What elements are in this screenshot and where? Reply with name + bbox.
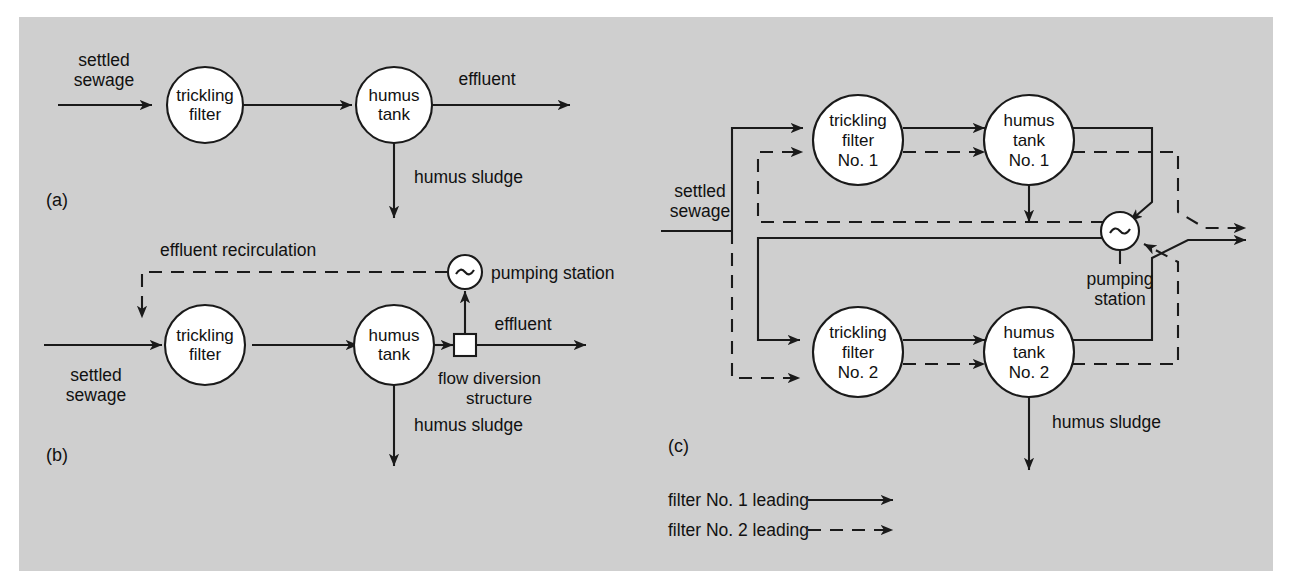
panel-b-tank-label-line1: humus bbox=[368, 326, 419, 345]
legend-item-2-label: filter No. 2 leading bbox=[668, 520, 809, 540]
panel-b-inlet-label-line2: sewage bbox=[66, 385, 126, 405]
panel-c-tank1-label-line2: tank bbox=[1013, 131, 1046, 150]
panel-c-filter1-label-line1: trickling bbox=[829, 111, 887, 130]
panel-c-tank1-to-pump-solid bbox=[1072, 128, 1152, 221]
panel-c-pumping-station-label-line2: station bbox=[1094, 289, 1146, 309]
panel-b-diversion-label-line2: structure bbox=[466, 389, 532, 408]
panel-c-filter2-label-line2: filter bbox=[842, 343, 874, 362]
panel-c: trickling filter No. 1 humus tank No. 1 … bbox=[661, 95, 1246, 470]
panel-c-tank1-to-effluent-dashed bbox=[1072, 152, 1246, 228]
panel-c-inlet-label-line1: settled bbox=[674, 181, 726, 201]
panel-b-filter-label-line1: trickling bbox=[176, 326, 234, 345]
panel-c-tank1-label-line1: humus bbox=[1003, 111, 1054, 130]
panel-c-tank1-label-line3: No. 1 bbox=[1009, 151, 1050, 170]
panel-b-tank-label-line2: tank bbox=[378, 345, 411, 364]
panel-b-sludge-label: humus sludge bbox=[414, 415, 523, 435]
panel-c-filter2-label-line1: trickling bbox=[829, 323, 887, 342]
panel-a-inlet-label-line2: sewage bbox=[74, 70, 134, 90]
panel-b: effluent recirculation pumping station s… bbox=[44, 240, 615, 466]
panel-a-tank-label-line2: tank bbox=[378, 105, 411, 124]
panel-b-diversion-label-line1: flow diversion bbox=[438, 369, 541, 388]
panel-a-effluent-label: effluent bbox=[458, 69, 515, 89]
panel-b-filter-label-line2: filter bbox=[189, 345, 221, 364]
panel-c-tank2-label-line2: tank bbox=[1013, 343, 1046, 362]
panel-a-filter-label-line1: trickling bbox=[176, 86, 234, 105]
panel-b-pumping-station-label: pumping station bbox=[491, 263, 615, 283]
panel-a-inlet-label-line1: settled bbox=[78, 50, 130, 70]
legend: filter No. 1 leading filter No. 2 leadin… bbox=[668, 490, 893, 540]
panel-c-influent-to-filter1-solid bbox=[732, 128, 803, 231]
panel-a-caption: (a) bbox=[46, 190, 68, 210]
panel-c-caption: (c) bbox=[668, 436, 689, 456]
figure-root: settled sewage trickling filter humus ta… bbox=[0, 0, 1294, 588]
panel-a-tank-label-line1: humus bbox=[368, 86, 419, 105]
panel-b-caption: (b) bbox=[46, 445, 68, 465]
panel-b-inlet-label-line1: settled bbox=[70, 365, 122, 385]
process-flow-diagram: settled sewage trickling filter humus ta… bbox=[0, 0, 1294, 588]
panel-c-sludge-label: humus sludge bbox=[1052, 412, 1161, 432]
panel-a: settled sewage trickling filter humus ta… bbox=[46, 50, 570, 218]
panel-b-recirculation-label: effluent recirculation bbox=[160, 240, 316, 260]
panel-b-effluent-label: effluent bbox=[494, 314, 551, 334]
panel-a-filter-label-line2: filter bbox=[189, 105, 221, 124]
panel-c-tank2-label-line1: humus bbox=[1003, 323, 1054, 342]
panel-c-influent-to-filter2-dashed bbox=[732, 231, 800, 378]
panel-c-pumping-station-label-line1: pumping bbox=[1086, 269, 1153, 289]
panel-c-filter1-label-line3: No. 1 bbox=[838, 151, 879, 170]
panel-c-inlet-label-line2: sewage bbox=[670, 201, 730, 221]
panel-a-sludge-label: humus sludge bbox=[414, 167, 523, 187]
panel-c-filter2-label-line3: No. 2 bbox=[838, 363, 879, 382]
panel-c-filter1-label-line2: filter bbox=[842, 131, 874, 150]
panel-b-flow-diversion-structure-node bbox=[454, 334, 476, 356]
legend-item-1-label: filter No. 1 leading bbox=[668, 490, 809, 510]
panel-c-tank2-label-line3: No. 2 bbox=[1009, 363, 1050, 382]
